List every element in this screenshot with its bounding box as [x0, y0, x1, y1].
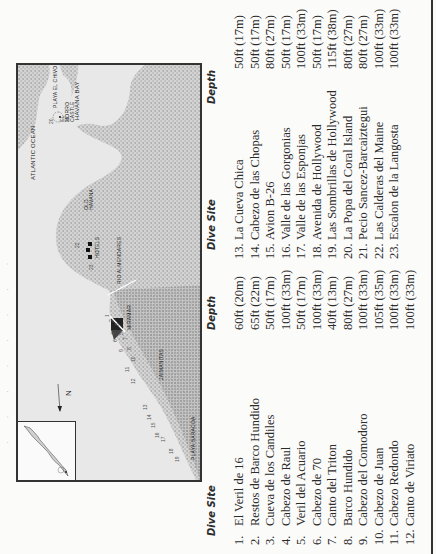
site-marker: 15 — [150, 422, 156, 428]
list-item: 23.Escalon de la Langosta — [387, 124, 403, 259]
site-marker: 18 — [168, 448, 174, 454]
depth-value: 40ft (13m) — [325, 276, 341, 330]
depth-value: 50ft (17m) — [232, 15, 248, 69]
site-marker: 6 — [112, 339, 118, 342]
site-marker: 23 — [88, 264, 94, 270]
depth-value: 100ft (33m) — [403, 270, 419, 330]
depth-value: 50ft (17m) — [279, 15, 295, 69]
list-item: 22.Las Calderas del Maine — [372, 122, 388, 259]
depth-value: 65ft (22m) — [248, 276, 264, 330]
list-item: 3.Cueva de los Candiles — [263, 415, 279, 545]
site-marker: 5 — [118, 332, 124, 335]
site-marker: 12 — [130, 378, 136, 384]
depth-value: 100ft (33m) — [279, 270, 295, 330]
list-item: 13.La Cueva Chica — [232, 159, 248, 259]
depth-value: 100ft (33m) — [372, 9, 388, 69]
depth-value: 100ft (33m) — [387, 270, 403, 330]
cuba-inset-map — [18, 421, 76, 480]
dive-site-map: N ATLANTIC OCEAN HAVANA BAY PLAYA EL CHI… — [16, 63, 202, 482]
list-item: 16.Valle de las Gorgonias — [279, 127, 295, 259]
col1-depth-header: Depth — [206, 296, 217, 330]
depth-value: 50ft (17m) — [294, 276, 310, 330]
col2-depth-header: Depth — [206, 70, 217, 104]
depth-value: 100ft (33m) — [356, 270, 372, 330]
list-item: 14.Cabezo de las Chopas — [248, 130, 264, 259]
site-marker: 2 — [108, 319, 114, 322]
list-item: 19.Las Sombrillas de Hollywood — [325, 90, 341, 259]
site-marker: 17 — [160, 436, 166, 442]
col1-site-header: Dive Site — [206, 485, 217, 536]
site-marker: 8 — [126, 347, 132, 350]
list-item: 2.Restos de Barco Hundido — [248, 398, 264, 545]
list-item: 9.Cabezo del Comodoro — [356, 414, 372, 545]
depth-value: 100ft (33m) — [387, 9, 403, 69]
bleed-through-text: · · · · · · · · — [2, 253, 12, 444]
list-item: 17.Valle de las Esponjas — [294, 134, 310, 259]
depth-value: 80ft (27m) — [263, 15, 279, 69]
label-miramar: MIRAMAR — [126, 305, 132, 330]
cuba-outline-icon — [18, 422, 75, 480]
site-marker: 22 — [74, 242, 80, 248]
north-label: N — [64, 390, 73, 396]
col2-site-header: Dive Site — [206, 199, 217, 250]
depth-value: 50ft (17m) — [248, 15, 264, 69]
list-item: 8.Barco Hundido — [341, 449, 357, 545]
site-marker: 20 — [48, 118, 54, 124]
depth-value: 100ft (33m) — [294, 9, 310, 69]
list-item: 11.Cabezo Redondo — [387, 440, 403, 545]
site-marker: 1 — [104, 314, 110, 317]
site-marker: 7 — [122, 337, 128, 340]
depth-value: 105ft (35m) — [372, 270, 388, 330]
depth-value: 80ft (27m) — [341, 276, 357, 330]
label-rio-almendares: RIO ALMENDARES — [116, 237, 122, 284]
site-marker: 21 — [64, 116, 70, 122]
label-old-havana: OLD HAVANA — [84, 188, 94, 210]
coastline-graphic — [18, 63, 202, 480]
site-marker: 11 — [124, 367, 130, 372]
label-jaimanitas: JAIMANITAS — [158, 349, 164, 380]
label-hotels: HOTELS — [94, 237, 100, 258]
site-marker: 10 — [130, 356, 136, 362]
list-item: 20.La Popa del Coral Island — [341, 116, 357, 259]
depth-value: 80ft (27m) — [341, 15, 357, 69]
label-playa-el-chivo: PLAYA EL CHIVO — [52, 66, 58, 108]
list-item: 1.El Veril de 16 — [232, 457, 248, 545]
list-item: 21.Pecio Sancez-Barcaiztegui — [356, 106, 372, 259]
site-marker: 9 — [118, 349, 124, 352]
list-item: 4.Cabezo de Raul — [279, 447, 295, 545]
rotated-book-page: · · · · · · · · — [0, 0, 436, 554]
depth-value: 50ft (17m) — [263, 276, 279, 330]
site-marker: 19 — [174, 456, 180, 462]
label-atlantic-ocean: ATLANTIC OCEAN — [30, 126, 36, 180]
list-item: 12.Canto de Viriato — [403, 444, 419, 545]
site-marker: 3 — [114, 323, 120, 326]
list-item: 6.Cabezo de 70 — [310, 458, 326, 545]
depth-value: 100ft (33m) — [310, 270, 326, 330]
depth-value: 115ft (38m) — [325, 9, 341, 69]
north-arrow-icon — [38, 376, 68, 416]
list-item: 7.Canto del Triton — [325, 444, 341, 545]
list-item: 18.Avenida de Hollywood — [310, 124, 326, 259]
list-item: 10.Cabezo de Juan — [372, 448, 388, 545]
depth-value: 80ft (27m) — [356, 15, 372, 69]
depth-value: 60ft (20m) — [232, 276, 248, 330]
page-edge-divider — [431, 0, 433, 554]
depth-value: 50ft (17m) — [310, 15, 326, 69]
site-marker: 4 — [110, 332, 116, 335]
label-playa-baracoa: PLAYA BARACOA — [190, 416, 196, 460]
site-marker: 13 — [142, 404, 148, 410]
list-item: 15.Avion B-26 — [263, 182, 279, 259]
site-marker: 14 — [146, 414, 152, 420]
list-item: 5.Veril del Acuario — [294, 441, 310, 545]
